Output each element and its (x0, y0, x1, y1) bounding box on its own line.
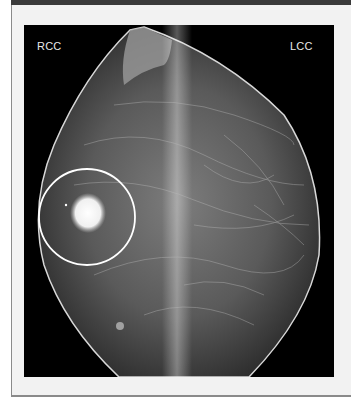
mammogram-graphic (24, 25, 334, 377)
mass-region (70, 193, 106, 233)
mammogram-image: RCC LCC (24, 25, 334, 377)
lcc-label: LCC (290, 40, 313, 52)
rcc-label: RCC (37, 40, 61, 52)
